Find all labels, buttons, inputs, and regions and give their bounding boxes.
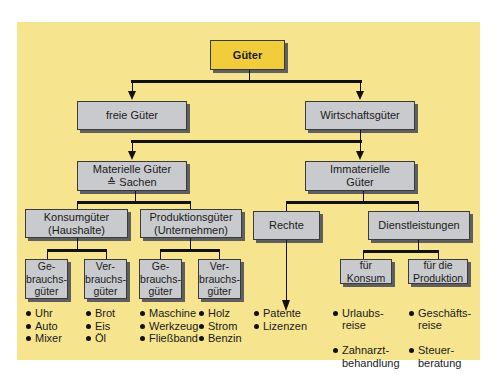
node-produktionsgueter: Produktionsgüter (Unternehmen) — [140, 209, 242, 238]
connector — [47, 249, 48, 259]
connector — [363, 250, 364, 259]
node-rechte: Rechte — [253, 211, 320, 240]
connector — [131, 80, 362, 83]
list-item: Holz — [199, 307, 242, 320]
connector — [106, 249, 107, 259]
arrow-down-icon — [356, 151, 364, 160]
list-item: Fließband — [140, 332, 198, 345]
node-konsum-verbrauchsgueter: Ver- brauchs- güter — [84, 259, 127, 299]
list-item: Uhr — [26, 307, 62, 320]
examples-rechte: Patente Lizenzen — [254, 307, 307, 332]
node-immaterielle-gueter: Immaterielle Güter — [305, 161, 415, 191]
list-item: Lizenzen — [254, 320, 307, 333]
examples-konsum-gebrauch: Uhr Auto Mixer — [26, 307, 62, 345]
node-produktion-gebrauchsgueter: Ge- brauchs- güter — [139, 259, 182, 299]
arrow-down-icon — [356, 91, 364, 100]
connector — [77, 201, 191, 204]
connector — [47, 249, 107, 252]
connector — [219, 249, 220, 259]
node-dienst-konsum: für Konsum — [340, 259, 392, 284]
list-item: Maschine — [140, 307, 198, 320]
node-dienst-produktion: für die Produktion — [408, 259, 468, 284]
list-item: Eis — [86, 320, 115, 333]
connector — [131, 140, 362, 143]
node-materielle-gueter: Materielle Güter ≙ Sachen — [77, 161, 187, 191]
node-konsum-gebrauchsgueter: Ge- brauchs- güter — [25, 259, 68, 299]
node-freie-gueter: freie Güter — [77, 101, 187, 130]
examples-konsum-verbrauch: Brot Eis Öl — [86, 307, 115, 345]
examples-produktion-verbrauch: Holz Strom Benzin — [199, 307, 242, 345]
node-dienstleistungen: Dienstleistungen — [368, 211, 470, 240]
connector — [160, 249, 220, 252]
list-item: Geschäfts- reise — [409, 307, 471, 332]
node-wirtschaftsgueter: Wirtschaftsgüter — [305, 101, 415, 130]
node-gueter: Güter — [210, 40, 285, 70]
arrow-down-icon — [128, 151, 136, 160]
connector — [286, 201, 419, 204]
connector — [160, 249, 161, 259]
list-item: Benzin — [199, 332, 242, 345]
examples-dienst-produktion: Geschäfts- reise Steuer- beratung — [409, 294, 471, 378]
connector — [286, 240, 287, 302]
list-item: Mixer — [26, 332, 62, 345]
list-item: Patente — [254, 307, 307, 320]
connector — [438, 250, 439, 259]
node-produktion-verbrauchsgueter: Ver- brauchs- güter — [198, 259, 241, 299]
list-item: Urlaubs- reise — [333, 307, 400, 332]
node-konsumgueter: Konsumgüter (Haushalte) — [25, 209, 128, 238]
connector — [363, 250, 439, 253]
connector — [286, 201, 287, 211]
list-item: Auto — [26, 320, 62, 333]
list-item: Öl — [86, 332, 115, 345]
examples-produktion-gebrauch: Maschine Werkzeug Fließband — [140, 307, 198, 345]
arrow-down-icon — [128, 91, 136, 100]
connector — [418, 201, 419, 211]
connector — [77, 201, 78, 209]
list-item: Werkzeug — [140, 320, 198, 333]
list-item: Steuer- beratung — [409, 344, 471, 369]
list-item: Strom — [199, 320, 242, 333]
connector — [190, 201, 191, 209]
list-item: Brot — [86, 307, 115, 320]
examples-dienst-konsum: Urlaubs- reise Zahnarzt- behandlung — [333, 294, 400, 378]
list-item: Zahnarzt- behandlung — [333, 344, 400, 369]
